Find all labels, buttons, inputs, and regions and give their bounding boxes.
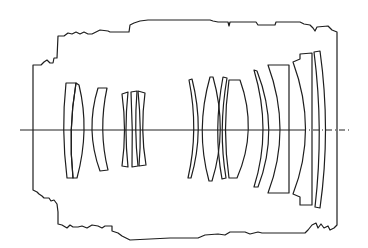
lens-group-middle: [188, 77, 248, 181]
lens-element-6: [138, 91, 146, 166]
lens-element-11: [254, 70, 269, 187]
lens-element-12: [268, 65, 289, 193]
lens-element-5: [131, 91, 138, 167]
lens-schematic-svg: [0, 0, 368, 248]
lens-element-13: [293, 53, 312, 205]
lens-group-second: [122, 91, 146, 167]
lens-element-7: [188, 79, 198, 178]
lens-element-10: [226, 80, 249, 178]
